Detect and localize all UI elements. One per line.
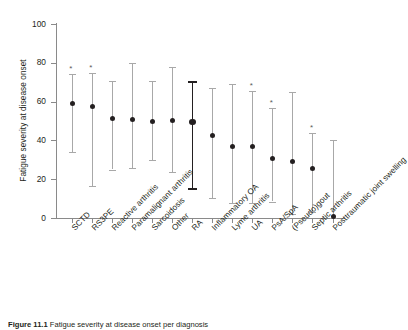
data-point-marker[interactable]	[90, 104, 95, 109]
error-bar-cap-lower	[169, 172, 176, 173]
significance-asterisk: *	[270, 99, 273, 107]
y-tick-label: 60	[6, 97, 46, 105]
data-point-marker[interactable]	[310, 166, 315, 171]
data-point-marker[interactable]	[210, 133, 215, 138]
data-point-marker[interactable]	[189, 119, 195, 125]
y-tick-label: 40	[6, 136, 46, 144]
y-tick-label: 80	[6, 58, 46, 66]
error-bar-cap-upper	[89, 73, 96, 74]
error-bar-cap-lower	[149, 160, 156, 161]
data-point-marker[interactable]	[110, 116, 115, 121]
data-point-marker[interactable]	[150, 119, 155, 124]
y-tick-label: 0	[6, 214, 46, 222]
error-bar-line	[312, 133, 313, 213]
error-bar-cap-upper	[269, 108, 276, 109]
error-bar-cap-upper	[69, 74, 76, 75]
error-bar-cap-upper	[169, 67, 176, 68]
data-point-marker[interactable]	[250, 144, 255, 149]
error-bar-line	[92, 73, 93, 186]
error-bar-cap-upper	[330, 140, 337, 141]
caption-label: Figure	[8, 320, 31, 329]
figure-caption: Figure 11.1 Fatigue severity at disease …	[8, 320, 354, 329]
plot-area: *****	[56, 24, 344, 218]
error-bar-line	[72, 74, 73, 152]
error-bar-line	[112, 81, 113, 169]
data-point-marker[interactable]	[70, 101, 75, 106]
error-bar-line	[272, 108, 273, 201]
y-tick-label: 100	[6, 20, 46, 28]
significance-asterisk: *	[69, 65, 72, 73]
error-bar-cap-upper	[229, 84, 236, 85]
data-point-marker[interactable]	[290, 159, 295, 164]
error-bar-cap-lower	[209, 198, 216, 199]
error-bar-cap-upper	[109, 81, 116, 82]
error-bar-line	[292, 92, 293, 214]
error-bar-cap-lower	[188, 188, 197, 190]
error-bar-cap-lower	[129, 168, 136, 169]
y-tick-label: 20	[6, 175, 46, 183]
caption-body: Fatigue severity at disease onset per di…	[50, 320, 208, 329]
data-point-marker[interactable]	[130, 117, 135, 122]
data-point-marker[interactable]	[170, 118, 175, 123]
significance-asterisk: *	[250, 82, 253, 90]
error-bar-cap-upper	[289, 92, 296, 93]
data-point-marker[interactable]	[270, 156, 275, 161]
error-bar-cap-lower	[89, 186, 96, 187]
error-bar-cap-upper	[309, 133, 316, 134]
error-bar-cap-upper	[249, 91, 256, 92]
error-bar-cap-upper	[188, 81, 197, 83]
error-bar-cap-upper	[149, 81, 156, 82]
data-point-marker[interactable]	[230, 144, 235, 149]
error-bar-line	[132, 63, 133, 168]
significance-asterisk: *	[89, 64, 92, 72]
significance-asterisk: *	[310, 124, 313, 132]
error-bar-line	[212, 88, 213, 198]
caption-number: 11.1	[33, 320, 47, 329]
error-bar-cap-lower	[269, 202, 276, 203]
error-bar-cap-upper	[209, 88, 216, 89]
error-bar-cap-upper	[129, 63, 136, 64]
error-bar-cap-lower	[69, 152, 76, 153]
error-bar-cap-lower	[109, 170, 116, 171]
